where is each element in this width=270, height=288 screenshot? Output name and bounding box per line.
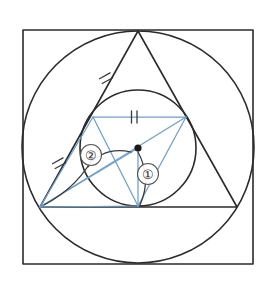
geometry-figure: ① ② (0, 0, 270, 288)
diagram-background (0, 0, 270, 288)
geometry-diagram-root: ① ② (0, 0, 270, 288)
angle-label-two-text: ② (85, 148, 97, 163)
angle-label-two: ② (81, 145, 102, 166)
angle-label-one-text: ① (142, 167, 154, 182)
angle-label-one: ① (138, 164, 159, 185)
incenter-dot (134, 144, 141, 151)
